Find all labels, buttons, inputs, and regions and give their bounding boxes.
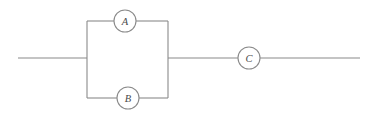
wire-group	[18, 21, 360, 98]
component-a: A	[114, 10, 136, 32]
circuit-diagram: A B C	[0, 0, 377, 117]
component-c-label: C	[245, 53, 253, 64]
component-a-label: A	[121, 16, 129, 27]
component-c: C	[238, 47, 260, 69]
circuit-svg-canvas: A B C	[0, 0, 377, 117]
component-b: B	[117, 87, 139, 109]
component-b-label: B	[125, 93, 132, 104]
